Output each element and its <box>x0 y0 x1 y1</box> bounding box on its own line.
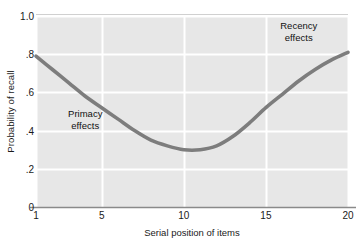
annotation-primacy: Primacyeffects <box>68 108 102 131</box>
y-tick-.8: .8 <box>4 49 34 60</box>
annotation-recency: Recencyeffects <box>280 20 317 43</box>
x-tick-20: 20 <box>328 210 363 221</box>
x-tick-5: 5 <box>82 210 122 221</box>
x-tick-1: 1 <box>16 210 56 221</box>
annotation-line: effects <box>68 119 102 131</box>
annotation-line: Primacy <box>68 108 102 120</box>
serial-position-chart: Probability of recall 0.2.4.6.81.0 15101… <box>0 0 363 249</box>
y-tick-.4: .4 <box>4 125 34 136</box>
annotation-line: effects <box>280 31 317 43</box>
y-tick-.2: .2 <box>4 163 34 174</box>
x-axis-title: Serial position of items <box>36 227 348 238</box>
x-tick-15: 15 <box>246 210 286 221</box>
y-tick-.6: .6 <box>4 87 34 98</box>
x-tick-10: 10 <box>164 210 204 221</box>
y-tick-1.0: 1.0 <box>4 11 34 22</box>
annotation-line: Recency <box>280 20 317 32</box>
